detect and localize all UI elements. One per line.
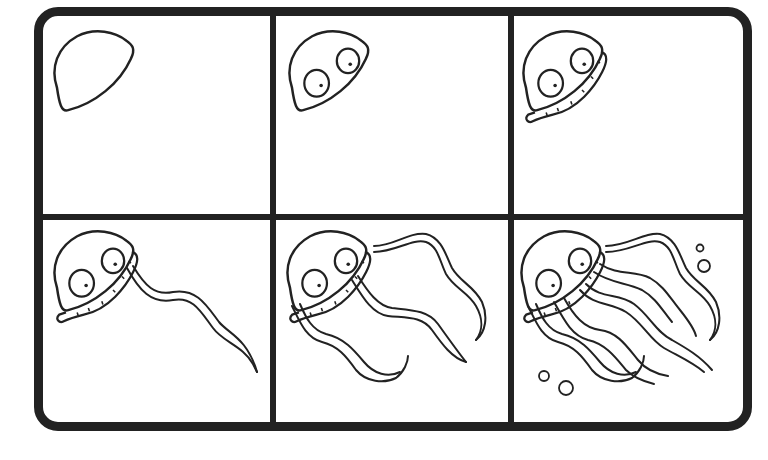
step-panel-5: Step 5: add more tentacles (276, 220, 508, 422)
step-panel-2: Step 2: add two eyes (276, 16, 508, 214)
step-panel-1: Step 1: dome-shaped bell (43, 16, 270, 214)
step-panel-6: Step 6: finish with all tentacles and bu… (514, 220, 743, 422)
jellyfish-one-tentacle-drawing (43, 220, 270, 422)
jellyfish-complete-drawing (514, 220, 743, 422)
jellyfish-three-tentacles-drawing (276, 220, 508, 422)
jellyfish-eyes-drawing (276, 16, 508, 214)
step-panel-4: Step 4: add first tentacle (43, 220, 270, 422)
step-panel-3: Step 3: add frilly rim (514, 16, 743, 214)
page-title: How to draw a jellyfish - 6 steps (0, 0, 1, 1)
jellyfish-rim-drawing (514, 16, 743, 214)
jellyfish-bell-drawing (43, 16, 270, 214)
